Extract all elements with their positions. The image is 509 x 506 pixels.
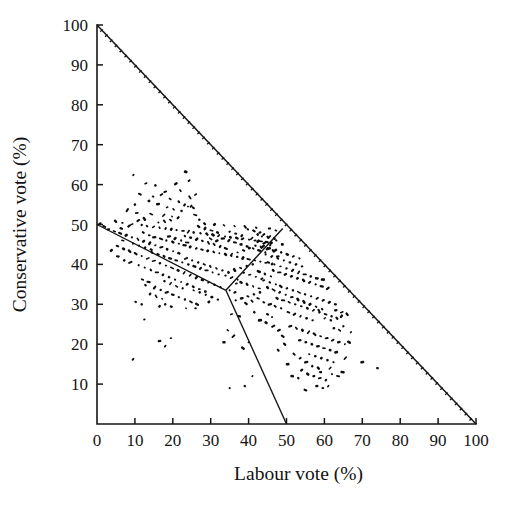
data-point xyxy=(145,224,148,227)
data-point xyxy=(205,232,209,236)
data-point xyxy=(192,289,195,292)
data-point xyxy=(275,283,278,285)
data-point xyxy=(202,263,206,266)
data-point xyxy=(297,270,301,274)
y-tick-label: 60 xyxy=(71,176,88,195)
data-point xyxy=(275,296,279,300)
data-point xyxy=(360,361,364,364)
data-point xyxy=(278,290,282,294)
data-point xyxy=(184,298,186,300)
data-point xyxy=(222,224,225,227)
data-point xyxy=(177,252,181,255)
data-point xyxy=(185,307,187,309)
data-point xyxy=(328,366,332,370)
data-point xyxy=(244,301,249,305)
data-point xyxy=(157,221,160,224)
data-point xyxy=(183,170,187,174)
data-point xyxy=(323,313,327,316)
data-point xyxy=(132,174,135,177)
data-point xyxy=(302,273,306,275)
data-point xyxy=(334,309,338,312)
data-point xyxy=(267,303,272,306)
data-point xyxy=(137,264,139,267)
data-point xyxy=(222,341,226,344)
data-point xyxy=(310,342,314,346)
data-point xyxy=(290,268,294,272)
data-point xyxy=(298,257,301,260)
data-point xyxy=(311,319,314,322)
data-point xyxy=(239,267,243,270)
data-point xyxy=(271,324,276,328)
x-tick-label: 0 xyxy=(93,431,102,450)
data-point xyxy=(305,372,310,376)
data-point xyxy=(252,229,256,233)
data-point xyxy=(204,293,207,296)
data-point xyxy=(194,193,198,196)
data-point xyxy=(175,229,178,232)
data-point xyxy=(199,232,202,235)
x-tick-label: 30 xyxy=(202,431,219,450)
data-point xyxy=(270,275,273,277)
data-point xyxy=(321,299,325,303)
data-point xyxy=(240,297,244,300)
data-point xyxy=(159,246,164,249)
data-point xyxy=(291,289,294,292)
data-point xyxy=(337,341,341,344)
data-point xyxy=(290,275,294,278)
data-point xyxy=(324,378,328,382)
data-point xyxy=(273,304,277,308)
y-tick-label: 70 xyxy=(71,136,88,155)
data-point xyxy=(240,237,244,241)
data-point xyxy=(230,313,233,315)
data-point xyxy=(171,240,175,244)
data-point xyxy=(216,298,219,301)
data-point xyxy=(264,251,267,254)
data-point xyxy=(292,255,296,258)
data-point xyxy=(157,339,161,342)
data-point xyxy=(243,225,247,230)
data-point xyxy=(332,327,335,330)
data-point xyxy=(221,237,226,240)
data-point xyxy=(323,317,326,320)
data-point xyxy=(140,255,143,258)
data-point xyxy=(158,262,161,265)
data-point xyxy=(327,300,331,304)
data-point xyxy=(121,239,125,241)
data-point xyxy=(271,288,276,292)
data-point xyxy=(228,387,231,390)
data-point xyxy=(182,271,186,275)
data-point xyxy=(233,291,237,295)
data-point xyxy=(176,216,180,220)
data-point xyxy=(285,293,287,295)
y-axis-title: Conservative vote (%) xyxy=(9,137,31,312)
data-point xyxy=(281,243,284,246)
data-point xyxy=(200,248,204,251)
data-point xyxy=(304,361,309,364)
data-point xyxy=(278,284,283,288)
data-point xyxy=(234,232,237,235)
data-point xyxy=(165,265,168,267)
data-point xyxy=(240,346,245,350)
data-point xyxy=(144,182,148,185)
data-point xyxy=(175,285,179,288)
data-point xyxy=(209,237,213,241)
data-point xyxy=(170,337,173,339)
data-point xyxy=(174,182,179,186)
data-point xyxy=(316,366,320,371)
data-point xyxy=(319,285,324,288)
data-point xyxy=(196,224,201,228)
y-tick-label: 20 xyxy=(71,335,88,354)
data-point xyxy=(233,241,237,244)
data-point xyxy=(315,277,319,280)
data-point xyxy=(177,296,180,299)
data-point xyxy=(140,303,144,307)
x-tick-label: 100 xyxy=(463,431,489,450)
data-point xyxy=(295,326,299,330)
data-point xyxy=(159,193,163,197)
x-tick-label: 70 xyxy=(354,431,371,450)
data-point xyxy=(215,231,219,235)
data-point xyxy=(332,361,335,364)
data-point xyxy=(256,239,261,244)
data-point xyxy=(308,302,312,306)
data-point xyxy=(189,300,193,304)
